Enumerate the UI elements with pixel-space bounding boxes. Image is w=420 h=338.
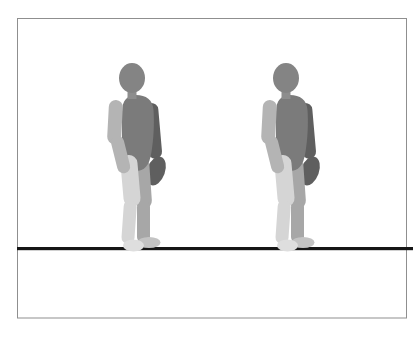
ground-line [17, 247, 413, 250]
person-figure-left[interactable] [107, 63, 170, 252]
stimulus-canvas [0, 0, 420, 338]
frame-border [18, 19, 407, 319]
person-figure-right[interactable] [261, 63, 324, 252]
